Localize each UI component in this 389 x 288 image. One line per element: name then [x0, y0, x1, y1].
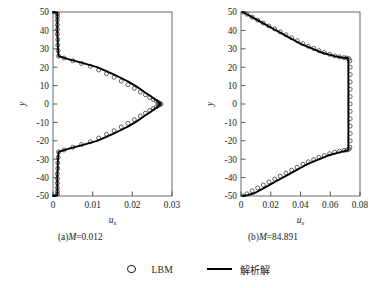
legend-label-analytical: 解析解 [240, 262, 271, 277]
series-line-analytical [53, 12, 160, 196]
y-tick-label: 40 [40, 26, 50, 36]
x-axis-title: ux [109, 215, 117, 226]
chart-svg-b: 00.020.040.060.0850403020100-10-20-30-40… [196, 0, 381, 245]
series-group [241, 10, 352, 198]
x-tick-label: 0.02 [124, 200, 141, 210]
caption-panel-b: (b)M=84.891 [248, 232, 298, 242]
open-circle-icon [119, 263, 145, 275]
y-tick-label: 30 [228, 44, 238, 54]
y-tick-label: 0 [232, 99, 237, 109]
chart-legend: LBM 解析解 [0, 258, 389, 280]
y-tick-label: 0 [44, 99, 49, 109]
y-tick-label: 20 [40, 63, 50, 73]
caption-b-symbol: M [259, 232, 267, 242]
x-tick-label: 0.01 [85, 200, 102, 210]
x-tick-label: 0.06 [322, 200, 339, 210]
y-axis-title: y [205, 101, 215, 107]
x-tick-label: 0.08 [352, 200, 369, 210]
chart-svg-a: 00.010.020.0350403020100-10-20-30-40-50u… [8, 0, 193, 245]
x-tick-label: 0.04 [292, 200, 309, 210]
y-tick-label: -30 [225, 155, 238, 165]
x-tick-label: 0 [51, 200, 56, 210]
y-tick-label: -20 [225, 136, 238, 146]
y-tick-label: -30 [37, 155, 50, 165]
plot-frame [53, 12, 172, 196]
legend-entry-analytical: 解析解 [207, 262, 271, 277]
panels-container: 00.010.020.0350403020100-10-20-30-40-50u… [0, 0, 389, 245]
y-tick-label: -10 [37, 118, 50, 128]
y-tick-label: 40 [228, 26, 238, 36]
legend-label-lbm: LBM [152, 264, 173, 275]
y-tick-label: 50 [228, 7, 238, 17]
y-tick-label: 30 [40, 44, 50, 54]
caption-b-prefix: (b) [248, 232, 259, 242]
y-tick-label: 10 [228, 81, 238, 91]
solid-line-icon [207, 263, 233, 275]
series-group [51, 10, 163, 198]
y-tick-label: -20 [37, 136, 50, 146]
panel-a-chart: 00.010.020.0350403020100-10-20-30-40-50u… [8, 0, 193, 245]
series-markers-lbm [51, 10, 163, 198]
y-axis-title: y [17, 101, 27, 107]
panel-b-chart: 00.020.040.060.0850403020100-10-20-30-40… [196, 0, 381, 245]
data-point [250, 189, 254, 193]
y-tick-label: -10 [225, 118, 238, 128]
data-point [256, 186, 260, 190]
y-tick-label: -50 [225, 191, 238, 201]
caption-a-value: =0.012 [76, 232, 102, 242]
y-tick-label: -40 [37, 173, 50, 183]
y-tick-label: 50 [40, 7, 50, 17]
y-tick-label: 10 [40, 81, 50, 91]
figure-plug-flow-velocity-profiles: 00.010.020.0350403020100-10-20-30-40-50u… [0, 0, 389, 288]
x-tick-label: 0 [239, 200, 244, 210]
x-tick-label: 0.03 [164, 200, 181, 210]
x-tick-label: 0.02 [263, 200, 280, 210]
caption-panel-a: (a)M=0.012 [58, 232, 103, 242]
data-point [261, 183, 265, 187]
x-axis-title: ux [297, 215, 305, 226]
y-tick-label: 20 [228, 63, 238, 73]
y-tick-label: -40 [225, 173, 238, 183]
caption-a-prefix: (a) [58, 232, 68, 242]
legend-entry-lbm: LBM [119, 263, 173, 275]
caption-b-value: =84.891 [267, 232, 298, 242]
captions-row: (a)M=0.012 (b)M=84.891 [0, 232, 389, 252]
y-tick-label: -50 [37, 191, 50, 201]
